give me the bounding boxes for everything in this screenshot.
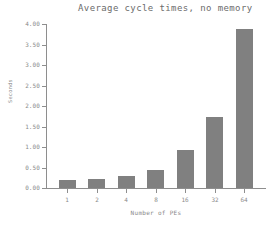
y-tick-label: 1.50 — [8, 123, 40, 130]
y-tick-mark — [42, 168, 47, 169]
x-axis-label: Number of PEs — [46, 209, 266, 216]
x-tick-mark — [185, 189, 186, 193]
y-tick-label: 3.50 — [8, 41, 40, 48]
y-tick-mark — [42, 106, 47, 107]
bar — [59, 180, 76, 188]
x-tick-mark — [215, 189, 216, 193]
y-tick-mark — [42, 127, 47, 128]
y-tick-label: 0.00 — [8, 184, 40, 191]
x-tick-label: 2 — [82, 196, 112, 203]
y-tick-mark — [42, 188, 47, 189]
bar — [88, 179, 105, 188]
y-tick-mark — [42, 24, 47, 25]
x-tick-label: 1 — [52, 196, 82, 203]
chart-title: Average cycle times, no memory — [78, 3, 268, 13]
bar — [118, 176, 135, 188]
x-tick-label: 16 — [170, 196, 200, 203]
y-tick-mark — [42, 45, 47, 46]
x-tick-label: 64 — [229, 196, 259, 203]
bar — [147, 170, 164, 188]
y-tick-label: 3.00 — [8, 61, 40, 68]
x-tick-mark — [244, 189, 245, 193]
y-tick-label: 4.00 — [8, 20, 40, 27]
bar — [236, 29, 253, 188]
x-tick-mark — [156, 189, 157, 193]
bar — [206, 117, 223, 188]
bar-chart: Average cycle times, no memory Seconds 0… — [0, 0, 271, 227]
bar — [177, 150, 194, 188]
y-tick-mark — [42, 147, 47, 148]
x-tick-label: 4 — [111, 196, 141, 203]
x-tick-label: 8 — [141, 196, 171, 203]
x-tick-mark — [67, 189, 68, 193]
y-tick-label: 2.50 — [8, 82, 40, 89]
x-tick-mark — [126, 189, 127, 193]
y-tick-label: 0.50 — [8, 164, 40, 171]
y-tick-label: 2.00 — [8, 102, 40, 109]
y-tick-mark — [42, 65, 47, 66]
x-tick-mark — [97, 189, 98, 193]
y-tick-mark — [42, 86, 47, 87]
x-tick-label: 32 — [200, 196, 230, 203]
y-tick-label: 1.00 — [8, 143, 40, 150]
